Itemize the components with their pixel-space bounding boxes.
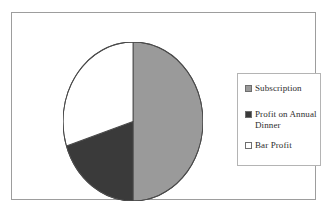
legend-swatch-icon-bar-profit bbox=[245, 142, 252, 149]
pie-chart-figure: Subscription Profit on Annual Dinner Bar… bbox=[0, 0, 328, 214]
legend-label-profit-on-annual-dinner: Profit on Annual Dinner bbox=[255, 109, 321, 130]
pie-svg bbox=[63, 42, 203, 201]
legend-item-subscription[interactable]: Subscription bbox=[245, 83, 321, 94]
legend-swatch-icon-subscription bbox=[245, 85, 252, 92]
legend-item-bar-profit[interactable]: Bar Profit bbox=[245, 140, 321, 151]
legend-item-profit-on-annual-dinner[interactable]: Profit on Annual Dinner bbox=[245, 109, 321, 130]
chart-legend: Subscription Profit on Annual Dinner Bar… bbox=[237, 73, 321, 166]
legend-label-subscription: Subscription bbox=[255, 83, 302, 94]
pie-slice-subscription[interactable] bbox=[133, 42, 203, 201]
pie-chart bbox=[63, 42, 203, 201]
figure-frame: Subscription Profit on Annual Dinner Bar… bbox=[11, 12, 316, 200]
legend-swatch-icon-profit-on-annual-dinner bbox=[245, 111, 252, 118]
legend-label-bar-profit: Bar Profit bbox=[255, 140, 292, 151]
